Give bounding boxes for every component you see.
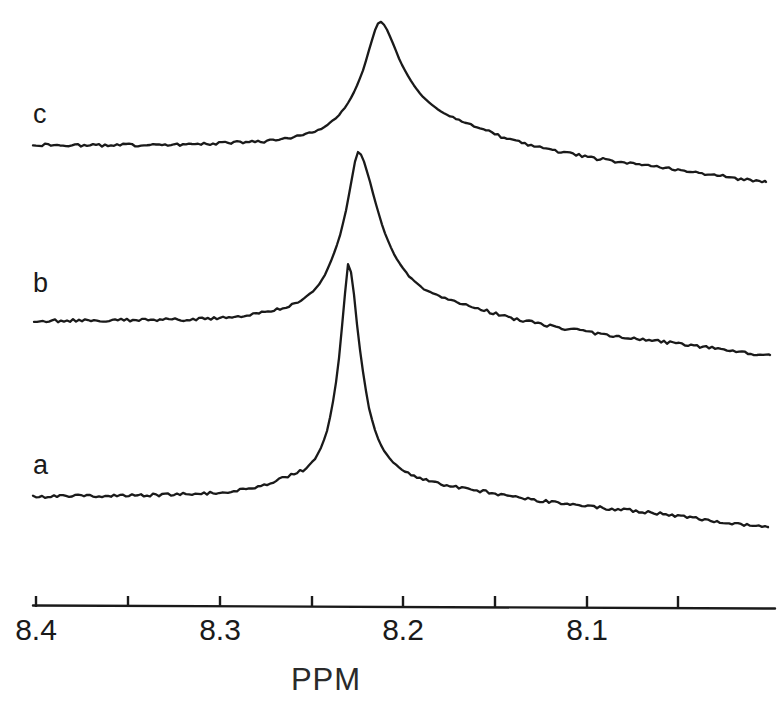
axis-tick-label: 8.1: [566, 615, 608, 645]
trace-group-c: [33, 22, 766, 182]
nmr-spectrum-figure: c b a 8.48.38.28.1 PPM: [0, 0, 782, 722]
axis-tick-label: 8.2: [382, 615, 424, 645]
trace-label-c: c: [33, 101, 47, 128]
x-axis: [33, 596, 775, 609]
trace-group-b: [34, 152, 770, 355]
trace-label-a: a: [33, 452, 48, 479]
trace-label-b: b: [33, 270, 48, 297]
trace-line-a: [33, 264, 768, 527]
trace-line-c: [33, 22, 766, 182]
axis-title-ppm: PPM: [291, 664, 361, 695]
trace-line-b: [34, 152, 770, 355]
trace-group-a: [33, 264, 768, 527]
axis-tick-label: 8.4: [15, 615, 57, 645]
axis-tick-label: 8.3: [199, 615, 241, 645]
